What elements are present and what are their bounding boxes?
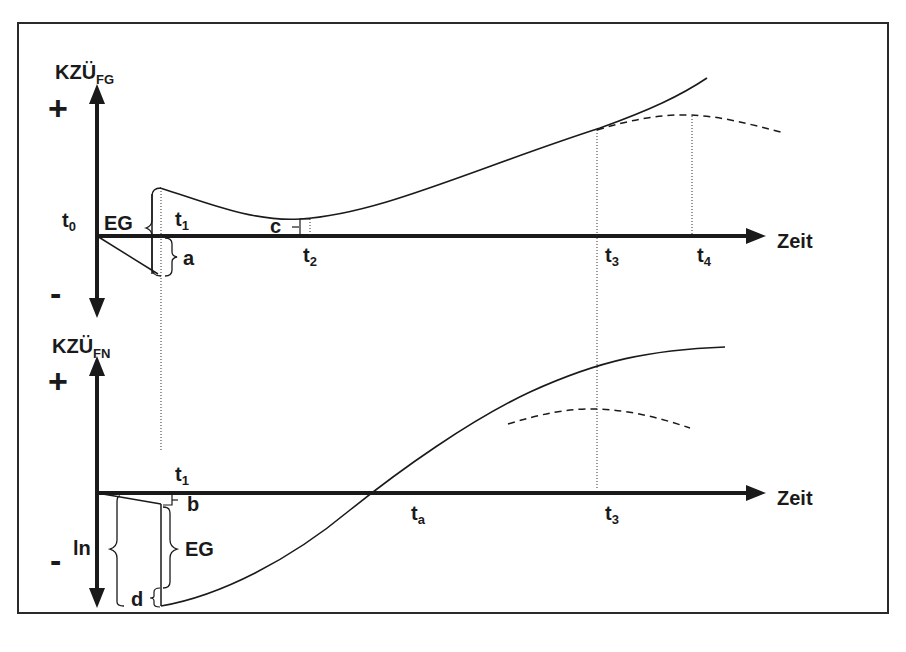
bottom-panel: KZÜFN + - Zeit ln b EG d t1 ta t3: [48, 335, 813, 610]
bottom-eg-label: EG: [185, 538, 214, 560]
top-x-axis-label: Zeit: [777, 230, 813, 252]
top-t4-label: t4: [697, 244, 712, 269]
bottom-dashed-curve: [508, 409, 690, 428]
top-plus-sign: +: [48, 89, 68, 127]
top-t2-label: t2: [303, 244, 317, 269]
bottom-x-axis-label: Zeit: [777, 487, 813, 509]
outer-frame: [18, 23, 888, 613]
bottom-t3-label: t3: [605, 502, 619, 527]
top-c-bracket: [300, 219, 310, 234]
bottom-minus-sign: -: [50, 541, 61, 579]
bottom-d-label: d: [131, 588, 143, 610]
top-y-axis-arrow-up-icon: [89, 84, 105, 104]
bottom-main-curve: [161, 347, 725, 606]
top-a-label: a: [183, 247, 195, 269]
top-main-curve: [160, 78, 707, 219]
top-t3-label: t3: [605, 244, 619, 269]
bottom-ta-label: ta: [411, 502, 426, 527]
diagram-canvas: KZÜFG + - Zeit t0 EG a t1 c t2: [0, 0, 906, 652]
bottom-ln-label: ln: [73, 537, 91, 559]
top-c-label: c: [270, 215, 281, 237]
bottom-y-axis-label: KZÜFN: [52, 335, 110, 361]
top-t1-label: t1: [175, 208, 189, 233]
top-eg-label: EG: [104, 212, 133, 234]
top-initial-decline: [97, 236, 158, 274]
top-minus-sign: -: [50, 274, 61, 312]
top-y-axis-label: KZÜFG: [55, 61, 114, 87]
top-y-axis-arrow-down-icon: [89, 298, 105, 318]
bottom-ln-brace: [110, 496, 124, 606]
bottom-b-label: b: [187, 493, 199, 515]
bottom-eg-brace: [163, 507, 177, 588]
top-eg-brace: [146, 188, 161, 276]
top-panel: KZÜFG + - Zeit t0 EG a t1 c t2: [48, 61, 813, 490]
bottom-t1-label: t1: [175, 463, 189, 488]
bottom-plus-sign: +: [48, 362, 68, 400]
bottom-y-axis-arrow-down-icon: [89, 588, 105, 608]
top-x-axis-arrow-icon: [746, 228, 766, 244]
top-a-brace: [165, 238, 177, 276]
top-dashed-curve: [597, 115, 784, 133]
bottom-d-brace: [150, 588, 160, 607]
top-origin-label: t0: [62, 209, 76, 234]
bottom-x-axis-arrow-icon: [746, 485, 766, 501]
